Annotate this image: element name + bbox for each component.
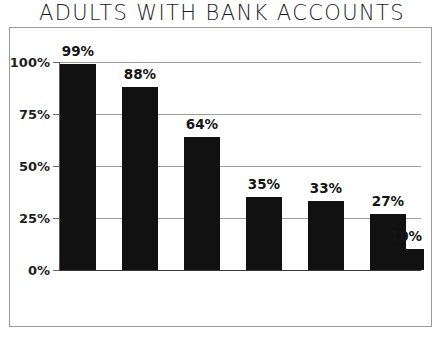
bar[interactable] <box>308 201 344 270</box>
ytick-label-100: 100% <box>10 56 50 69</box>
bar[interactable] <box>246 197 282 270</box>
bar-value-label: 64% <box>186 118 218 132</box>
bar-value-label: 10% <box>390 230 422 244</box>
ytick-label-25: 25% <box>19 212 50 225</box>
gridline-50 <box>60 166 421 167</box>
ytick-label-75: 75% <box>19 108 50 121</box>
bar-value-label: 35% <box>248 178 280 192</box>
gridline-25 <box>60 218 421 219</box>
ytick-label-50: 50% <box>19 160 50 173</box>
chart-frame: 100% 75% 50% 25% 0% 99% UK Canada German… <box>9 27 432 327</box>
plot-area: 100% 75% 50% 25% 0% 99% UK Canada German… <box>60 62 421 270</box>
bar-value-label: 27% <box>372 195 404 209</box>
chart-title: ADULTS WITH BANK ACCOUNTS <box>0 1 444 25</box>
gridline-75 <box>60 114 421 115</box>
bar[interactable] <box>60 64 96 270</box>
gridline-100 <box>60 62 421 63</box>
bar[interactable] <box>122 87 158 270</box>
ytick-label-0: 0% <box>28 264 50 277</box>
bar[interactable] <box>388 249 424 270</box>
bar[interactable] <box>184 137 220 270</box>
bar-value-label: 88% <box>124 68 156 82</box>
bar-value-label: 99% <box>62 45 94 59</box>
x-axis-line <box>59 270 421 271</box>
bar-value-label: 33% <box>310 182 342 196</box>
